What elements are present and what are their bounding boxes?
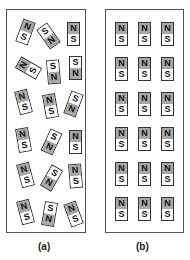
south-pole: S — [18, 101, 31, 114]
south-pole: S — [139, 174, 150, 185]
south-pole: S — [162, 69, 173, 80]
bar-magnet: SN — [46, 59, 61, 84]
panel-b-aligned-domains: NSNSNSNSNSNSNSNSNSNSNSNSNSNSNSNSNSNS — [105, 9, 184, 233]
bar-magnet: SN — [41, 201, 58, 227]
north-pole: N — [116, 93, 127, 104]
south-pole: S — [116, 34, 127, 45]
bar-magnet: NS — [115, 22, 128, 46]
bar-magnet: NS — [161, 162, 174, 186]
north-pole: N — [116, 128, 127, 139]
bar-magnet: NS — [15, 56, 42, 79]
north-pole: N — [116, 198, 127, 209]
north-pole: N — [65, 102, 79, 116]
south-pole: S — [162, 34, 173, 45]
south-pole: S — [68, 34, 79, 45]
bar-magnet: NS — [69, 130, 82, 154]
bar-magnet: NS — [138, 127, 151, 151]
bar-magnet: NS — [161, 22, 174, 46]
bar-magnet: NS — [15, 127, 32, 153]
north-pole: N — [139, 128, 150, 139]
south-pole: S — [20, 211, 33, 224]
bar-magnet: NS — [138, 92, 151, 116]
bar-magnet: NS — [161, 92, 174, 116]
north-pole: N — [70, 131, 81, 142]
bar-magnet: SN — [36, 22, 60, 49]
bar-magnet: NS — [68, 163, 83, 188]
bar-magnet: NS — [161, 57, 174, 81]
bar-magnet: NS — [115, 92, 128, 116]
south-pole: S — [139, 69, 150, 80]
bar-magnet: NS — [42, 93, 59, 119]
south-pole: S — [139, 104, 150, 115]
bar-magnet: NS — [67, 22, 80, 46]
south-pole: S — [18, 139, 31, 152]
bar-magnet: NS — [16, 199, 35, 226]
bar-magnet: NS — [63, 201, 83, 228]
south-pole: S — [20, 174, 33, 187]
north-pole: N — [42, 213, 55, 226]
bar-magnet: NS — [138, 22, 151, 46]
north-pole: N — [162, 163, 173, 174]
south-pole: S — [116, 69, 127, 80]
north-pole: N — [162, 93, 173, 104]
south-pole: S — [70, 142, 81, 153]
bar-magnet: NS — [161, 127, 174, 151]
south-pole: S — [116, 174, 127, 185]
north-pole: N — [116, 23, 127, 34]
south-pole: S — [116, 209, 127, 220]
north-pole: N — [48, 72, 60, 84]
north-pole: N — [116, 163, 127, 174]
south-pole: S — [17, 30, 31, 44]
north-pole: N — [116, 58, 127, 69]
south-pole: S — [139, 209, 150, 220]
north-pole: N — [139, 93, 150, 104]
bar-magnet: NS — [115, 197, 128, 221]
north-pole: N — [162, 198, 173, 209]
bar-magnet: NS — [16, 162, 35, 189]
bar-magnet: NS — [115, 162, 128, 186]
bar-magnet: SN — [69, 56, 82, 80]
south-pole: S — [139, 34, 150, 45]
south-pole: S — [116, 104, 127, 115]
panel-b-label: (b) — [136, 241, 149, 252]
north-pole: N — [139, 23, 150, 34]
south-pole: S — [70, 176, 82, 188]
south-pole: S — [162, 209, 173, 220]
bar-magnet: NS — [138, 162, 151, 186]
north-pole: N — [162, 128, 173, 139]
south-pole: S — [68, 212, 82, 226]
bar-magnet: NS — [138, 57, 151, 81]
south-pole: S — [139, 139, 150, 150]
north-pole: N — [139, 163, 150, 174]
north-pole: N — [162, 58, 173, 69]
south-pole: S — [162, 139, 173, 150]
bar-magnet: SN — [41, 128, 63, 155]
north-pole: N — [139, 58, 150, 69]
bar-magnet: NS — [15, 19, 35, 46]
bar-magnet: NS — [161, 197, 174, 221]
south-pole: S — [70, 57, 81, 68]
south-pole: S — [162, 174, 173, 185]
bar-magnet: SN — [63, 91, 83, 118]
south-pole: S — [116, 139, 127, 150]
north-pole: N — [70, 68, 81, 79]
south-pole: S — [162, 104, 173, 115]
north-pole: N — [68, 23, 79, 34]
south-pole: S — [45, 105, 58, 118]
bar-magnet: NS — [14, 89, 33, 116]
bar-magnet: NS — [115, 127, 128, 151]
panel-a-random-domains: NSSNNSNSSNSNNSNSSNNSSNNSNSSNNSNSSNNS — [6, 9, 86, 233]
bar-magnet: NS — [115, 57, 128, 81]
north-pole: N — [139, 198, 150, 209]
bar-magnet: SN — [40, 164, 63, 191]
north-pole: N — [162, 23, 173, 34]
bar-magnet: NS — [138, 197, 151, 221]
panel-a-label: (a) — [38, 241, 50, 252]
